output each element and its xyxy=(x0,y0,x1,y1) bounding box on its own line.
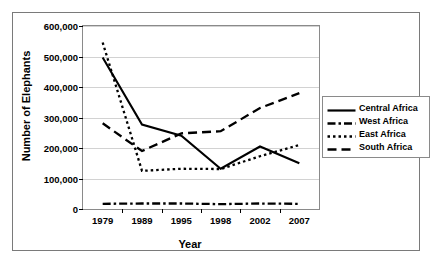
x-tick-mark xyxy=(162,209,163,213)
x-tick-mark xyxy=(201,209,202,213)
x-tick-label: 1989 xyxy=(131,215,152,226)
series-line xyxy=(103,204,300,205)
y-axis-title: Number of Elephants xyxy=(20,36,32,176)
dash-dot-line-swatch xyxy=(327,115,356,126)
chart-figure: Number of Elephants Year 0100,000200,000… xyxy=(0,0,436,268)
x-tick-label: 1998 xyxy=(210,215,231,226)
x-tick-label: 1995 xyxy=(171,215,192,226)
x-tick-label: 2007 xyxy=(289,215,310,226)
legend-item[interactable]: South Africa xyxy=(327,140,426,153)
series-line xyxy=(103,57,300,168)
solid-line-swatch xyxy=(327,102,356,113)
x-tick-mark xyxy=(122,209,123,213)
y-tick-label: 100,000 xyxy=(44,173,78,184)
legend-label: East Africa xyxy=(359,129,406,139)
dashed-line-swatch xyxy=(327,141,356,152)
legend-label: Central Africa xyxy=(359,103,418,113)
series-line xyxy=(103,93,300,151)
legend-item[interactable]: East Africa xyxy=(327,127,426,140)
y-tick-label: 500,000 xyxy=(44,51,78,62)
y-tick-label: 200,000 xyxy=(44,143,78,154)
y-tick-label: 600,000 xyxy=(44,21,78,32)
y-tick-label: 0 xyxy=(73,204,78,215)
x-tick-label: 2002 xyxy=(249,215,270,226)
legend-item[interactable]: West Africa xyxy=(327,114,426,127)
x-tick-mark xyxy=(240,209,241,213)
y-tick-label: 400,000 xyxy=(44,82,78,93)
legend-item[interactable]: Central Africa xyxy=(327,101,426,114)
legend-label: South Africa xyxy=(359,142,412,152)
plot-area: 0100,000200,000300,000400,000500,000600,… xyxy=(82,25,320,210)
legend-label: West Africa xyxy=(359,116,408,126)
series-lines xyxy=(83,26,319,209)
dotted-line-swatch xyxy=(327,128,356,139)
x-tick-mark xyxy=(280,209,281,213)
chart-legend: Central AfricaWest AfricaEast AfricaSout… xyxy=(322,96,430,158)
y-tick-mark xyxy=(79,209,83,210)
x-tick-label: 1979 xyxy=(92,215,113,226)
y-tick-label: 300,000 xyxy=(44,112,78,123)
x-axis-title: Year xyxy=(60,238,320,250)
